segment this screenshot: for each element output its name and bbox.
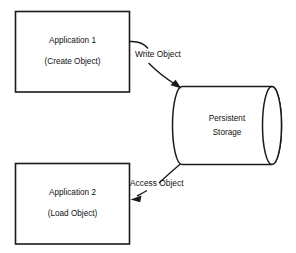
node-persistent-storage[interactable]: Persistent Storage xyxy=(173,87,282,165)
node-application-1[interactable]: Application 1 (Create Object) xyxy=(16,12,130,93)
write-object-lead-line xyxy=(130,41,148,48)
edge-write-object[interactable]: Write Object xyxy=(130,41,182,88)
persistent-storage-subtitle: Storage xyxy=(213,128,242,137)
persistent-storage-cap xyxy=(263,87,282,165)
application-1-title: Application 1 xyxy=(49,36,96,45)
application-2-box[interactable] xyxy=(16,164,130,245)
write-object-arrowhead xyxy=(171,80,182,89)
edge-access-object[interactable]: Access Object xyxy=(130,164,184,202)
node-application-2[interactable]: Application 2 (Load Object) xyxy=(16,164,130,245)
application-2-title: Application 2 xyxy=(49,188,96,197)
write-object-arrow-line xyxy=(149,63,176,85)
access-object-label: Access Object xyxy=(130,178,184,188)
application-1-subtitle: (Create Object) xyxy=(45,57,101,66)
access-object-arrowhead xyxy=(131,196,142,203)
write-object-label: Write Object xyxy=(135,49,182,59)
application-2-subtitle: (Load Object) xyxy=(48,209,98,218)
application-1-box[interactable] xyxy=(16,12,130,93)
persistent-storage-title: Persistent xyxy=(209,114,246,123)
access-object-arrow-line xyxy=(137,191,147,197)
diagram-canvas: Application 1 (Create Object) Applicatio… xyxy=(0,0,296,253)
diagram-svg: Application 1 (Create Object) Applicatio… xyxy=(0,0,296,253)
